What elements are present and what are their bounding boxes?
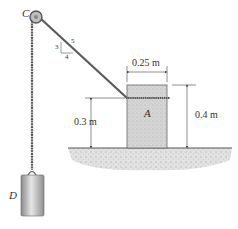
label-weight-d: D [9, 190, 17, 201]
rope-inclined [40, 18, 127, 98]
dim-width [127, 66, 167, 82]
label-slope-rise: 3 [55, 44, 59, 51]
label-width-dim: 0.25 m [132, 58, 160, 68]
label-slope-run: 4 [65, 54, 69, 61]
label-block-a: A [144, 108, 151, 119]
diagram-canvas: C A D 0.25 m 0.4 m 0.3 m 3 4 5 [0, 0, 238, 229]
weight-d [21, 172, 44, 217]
label-slope-hyp: 5 [71, 38, 75, 45]
label-rope-height-dim: 0.3 m [74, 117, 97, 127]
ground [68, 148, 232, 170]
label-height-dim: 0.4 m [195, 110, 218, 120]
pulley-c [30, 11, 42, 23]
dim-height [172, 85, 196, 147]
label-pulley-c: C [22, 8, 29, 19]
